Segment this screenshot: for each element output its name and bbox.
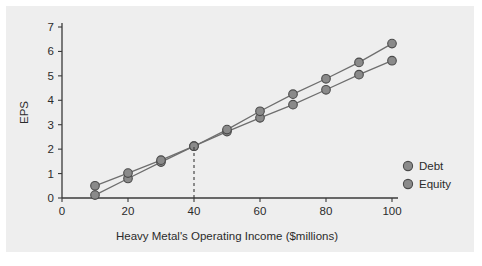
x-tick-label-100: 100: [382, 205, 401, 217]
y-tick-label-4: 4: [48, 94, 55, 106]
data-point-debt-70: [289, 100, 298, 109]
labels-group: EPSHeavy Metal's Operating Income ($mill…: [18, 101, 338, 242]
data-point-debt-80: [322, 85, 331, 94]
legend-label-equity: Equity: [419, 178, 451, 190]
data-point-equity-50: [223, 125, 232, 134]
data-point-debt-100: [388, 56, 397, 65]
data-point-equity-60: [256, 107, 265, 116]
x-tick-label-20: 20: [122, 205, 135, 217]
x-tick-label-60: 60: [254, 205, 267, 217]
chart-panel: 01234567020406080100 EPSHeavy Metal's Op…: [6, 6, 474, 252]
data-point-equity-30: [157, 156, 166, 165]
x-tick-label-80: 80: [320, 205, 333, 217]
data-point-debt-90: [355, 70, 364, 79]
y-tick-label-7: 7: [48, 21, 54, 33]
y-tick-label-3: 3: [48, 119, 54, 131]
data-point-equity-20: [124, 169, 133, 178]
y-tick-label-6: 6: [48, 45, 54, 57]
y-tick-label-1: 1: [48, 168, 54, 180]
series-line-equity: [95, 44, 392, 186]
y-tick-label-5: 5: [48, 70, 54, 82]
data-point-equity-80: [322, 74, 331, 83]
y-tick-label-0: 0: [48, 192, 54, 204]
y-tick-label-2: 2: [48, 143, 54, 155]
data-point-equity-10: [91, 181, 100, 190]
y-axis-title: EPS: [18, 101, 30, 124]
legend-marker-equity: [403, 179, 412, 188]
series-line-debt: [95, 61, 392, 195]
legend-marker-debt: [403, 161, 412, 170]
eps-vs-operating-income-chart: 01234567020406080100 EPSHeavy Metal's Op…: [6, 6, 474, 252]
legend-label-debt: Debt: [419, 160, 444, 172]
x-axis-title: Heavy Metal's Operating Income ($million…: [116, 230, 338, 242]
chart-page: 01234567020406080100 EPSHeavy Metal's Op…: [0, 0, 482, 266]
x-tick-label-0: 0: [59, 205, 65, 217]
x-tick-label-40: 40: [188, 205, 201, 217]
data-point-equity-70: [289, 90, 298, 99]
series-group: [91, 39, 397, 199]
chart-legend: DebtEquity: [403, 160, 451, 190]
data-point-equity-100: [388, 39, 397, 48]
data-point-equity-90: [355, 58, 364, 67]
axes-group: 01234567020406080100: [48, 21, 402, 217]
data-point-debt-10: [91, 191, 100, 200]
